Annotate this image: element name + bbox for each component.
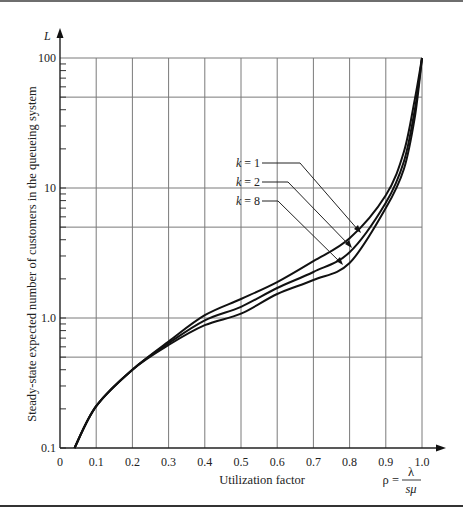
x-tick-label: 0.1 <box>89 455 104 469</box>
curve-k8 <box>75 58 423 448</box>
x-tick-label: 0.8 <box>342 455 357 469</box>
y-tick-label: 0.1 <box>41 441 56 455</box>
x-tick-label: 0.4 <box>197 455 212 469</box>
y-minor-ticks <box>60 64 66 448</box>
x-tick-label: 0.7 <box>306 455 321 469</box>
y-tick-labels: 0.11.010100 <box>38 51 56 455</box>
leader-k2 <box>262 182 350 246</box>
x-tick-label: 0.5 <box>234 455 249 469</box>
leader-k1 <box>262 163 359 231</box>
leader-k8 <box>262 201 341 263</box>
x-tick-label: 1.0 <box>415 455 430 469</box>
rho-formula: ρ = λ sμ <box>383 465 421 496</box>
x-tick-labels: 00.10.20.30.40.50.60.70.80.91.0 <box>57 455 430 469</box>
y-axis-symbol: L <box>43 29 51 43</box>
y-axis-arrow-icon <box>57 28 64 38</box>
curve-k1 <box>75 58 423 448</box>
formula-denominator: sμ <box>405 482 416 496</box>
curve-k2 <box>75 58 423 448</box>
legend-label-k8: k = 8 <box>236 194 260 208</box>
x-tick-label: 0.6 <box>270 455 285 469</box>
x-tick-label: 0.2 <box>125 455 140 469</box>
x-tick-label: 0 <box>57 455 63 469</box>
x-tick-label: 0.3 <box>161 455 176 469</box>
chart: 00.10.20.30.40.50.60.70.80.91.0 0.11.010… <box>0 0 463 518</box>
gridlines <box>60 58 422 448</box>
formula-numerator: λ <box>408 465 414 479</box>
curves <box>75 58 423 448</box>
axes <box>57 28 447 452</box>
x-axis-title: Utilization factor <box>219 473 306 487</box>
y-axis-title: Steady-state expected number of customer… <box>25 86 39 422</box>
legend-label-k1: k = 1 <box>236 156 260 170</box>
x-axis-arrow-icon <box>436 445 446 452</box>
x-tick-label: 0.9 <box>378 455 393 469</box>
y-tick-label: 1.0 <box>41 311 56 325</box>
y-tick-label: 100 <box>38 51 56 65</box>
legend-label-k2: k = 2 <box>236 175 260 189</box>
legend: k = 1 k = 2 k = 8 <box>236 156 361 265</box>
y-tick-label: 10 <box>44 181 56 195</box>
formula-lhs: ρ = <box>383 473 399 487</box>
